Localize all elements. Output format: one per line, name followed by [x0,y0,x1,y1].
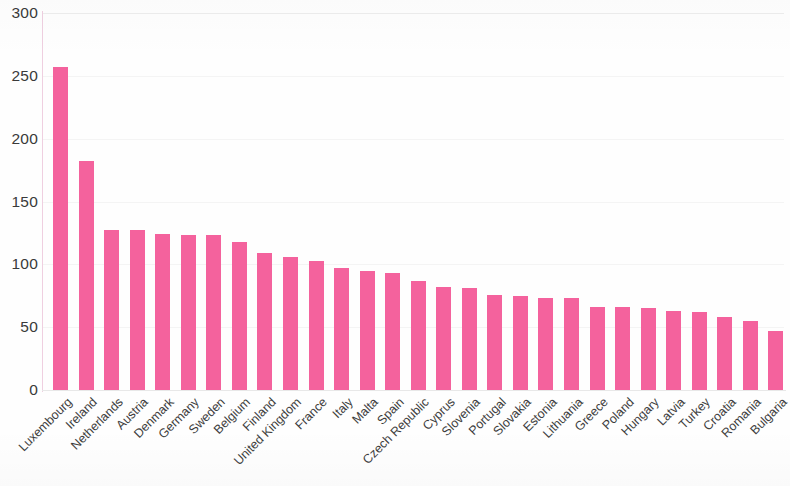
bar [487,295,502,391]
plot-area [43,13,784,390]
bar [538,298,553,390]
y-axis-tick-label: 150 [0,194,38,210]
bar [53,67,68,390]
bar [615,307,630,390]
bar [155,234,170,390]
bar [130,230,145,390]
gridline [43,76,784,77]
bar [590,307,605,390]
bar [334,268,349,390]
bar [360,271,375,390]
y-axis-tick-label: 200 [0,131,38,147]
y-axis-tick-label: 0 [0,382,38,398]
bar [232,242,247,390]
bar-chart-figure: 050100150200250300 LuxembourgIrelandNeth… [0,0,790,486]
bar [104,230,119,390]
bar [206,235,221,390]
bar [666,311,681,390]
bar [181,235,196,390]
bar [462,288,477,390]
y-axis-tick-label: 300 [0,5,38,21]
x-axis-category-labels: LuxembourgIrelandNetherlandsAustriaDenma… [43,392,784,486]
gridline [43,264,784,265]
y-axis-tick-label: 50 [0,319,38,335]
bar [257,253,272,390]
bar [564,298,579,390]
bar [692,312,707,390]
bar [641,308,656,390]
gridline [43,202,784,203]
x-axis-line [42,390,786,391]
bar [513,296,528,390]
y-axis-tick-label: 100 [0,256,38,272]
bar [309,261,324,390]
bar [385,273,400,390]
bar [768,331,783,390]
bar [411,281,426,390]
gridline [43,139,784,140]
bar [283,257,298,390]
gridline [43,13,784,14]
bar [717,317,732,390]
y-axis-tick-label: 250 [0,68,38,84]
bar [436,287,451,390]
bar [743,321,758,390]
bar [79,161,94,390]
